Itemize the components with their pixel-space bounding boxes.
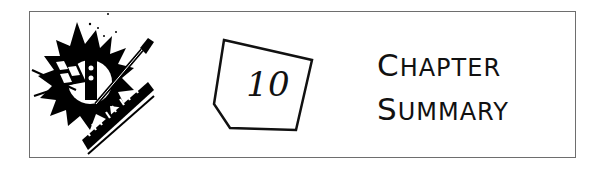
title-line-1: CHAPTER (377, 46, 509, 90)
music-instruments-clipart-icon (30, 12, 160, 157)
chapter-summary-title: CHAPTER SUMMARY (377, 46, 509, 134)
title-line-2: SUMMARY (377, 90, 509, 134)
chapter-number: 10 (238, 64, 298, 104)
